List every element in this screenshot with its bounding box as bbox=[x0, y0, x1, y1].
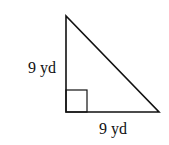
right-triangle-diagram: 9 yd 9 yd bbox=[0, 0, 169, 145]
horizontal-leg-label: 9 yd bbox=[99, 120, 127, 138]
triangle bbox=[66, 16, 159, 112]
vertical-leg-label: 9 yd bbox=[28, 59, 56, 77]
right-angle-marker bbox=[66, 90, 87, 112]
